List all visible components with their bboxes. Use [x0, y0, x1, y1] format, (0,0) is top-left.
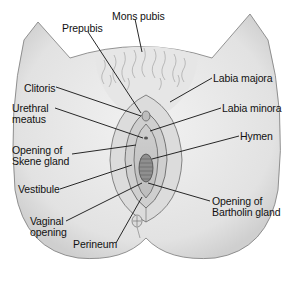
label-vestibule: Vestibule	[18, 184, 60, 195]
label-labia-majora: Labia majora	[213, 73, 273, 84]
label-perineum: Perineum	[73, 239, 117, 250]
label-skene-gland-opening: Opening of Skene gland	[12, 145, 69, 167]
label-mons-pubis: Mons pubis	[112, 11, 165, 22]
label-hymen: Hymen	[240, 131, 273, 142]
label-prepubis: Prepubis	[62, 23, 103, 34]
vaginal-opening-shape	[139, 154, 153, 182]
label-clitoris: Clitoris	[24, 83, 55, 94]
label-vaginal-opening: Vaginal opening	[30, 216, 67, 238]
label-bartholin-gland-opening: Opening of Bartholin gland	[212, 196, 281, 218]
label-labia-minora: Labia minora	[222, 103, 282, 114]
clitoris-shape	[142, 111, 150, 121]
urethral-meatus-shape	[144, 136, 148, 139]
label-urethral-meatus: Urethral meatus	[12, 103, 49, 125]
